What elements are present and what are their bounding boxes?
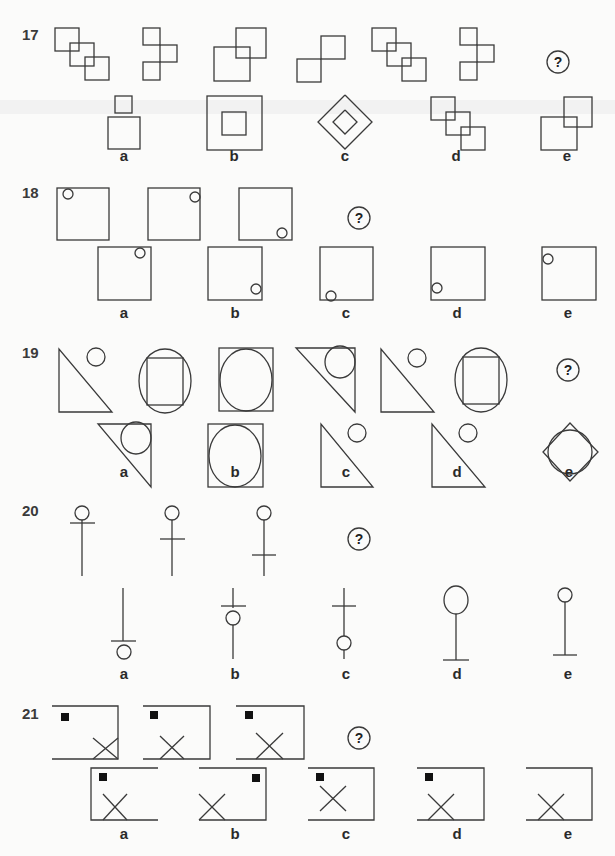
option-b[interactable]: b	[208, 424, 263, 487]
circle-outline	[432, 283, 442, 293]
option-label: d	[452, 665, 461, 682]
circle-outline	[251, 284, 261, 294]
question-mark-icon: ?	[557, 359, 579, 381]
option-label: a	[120, 304, 129, 321]
option-label: c	[342, 665, 350, 682]
square-outline	[222, 112, 246, 135]
option-c[interactable]: c	[332, 588, 356, 682]
square-outline	[372, 28, 396, 51]
option-a[interactable]: a	[98, 247, 151, 321]
option-d[interactable]: d	[432, 424, 485, 487]
option-e[interactable]: e	[553, 588, 577, 682]
square-outline	[321, 36, 345, 59]
question-number: 19	[22, 344, 39, 361]
option-label: d	[452, 825, 461, 842]
sequence-figure	[59, 348, 112, 412]
circle-outline	[348, 424, 366, 442]
option-label: e	[564, 304, 572, 321]
filled-square	[150, 711, 158, 719]
circle-outline	[117, 645, 131, 659]
answer-options: abcde	[98, 247, 596, 321]
question-mark-icon: ?	[348, 727, 370, 749]
option-label: d	[451, 147, 460, 164]
square-outline	[98, 247, 151, 300]
option-label: a	[120, 147, 129, 164]
option-label: c	[342, 825, 350, 842]
sequence-figures	[55, 28, 494, 82]
square-outline	[208, 247, 262, 300]
option-e[interactable]: e	[543, 423, 598, 481]
circle-outline	[257, 506, 271, 520]
option-label: a	[120, 665, 129, 682]
square-outline	[541, 117, 577, 150]
circle-outline	[543, 254, 553, 264]
option-label: b	[230, 665, 239, 682]
option-c[interactable]: c	[321, 424, 373, 487]
question-number: 17	[22, 26, 39, 43]
questions-root: 17?abcde18?abcde19?abcde20?abcde21?abcde	[22, 26, 598, 842]
circle-outline	[87, 348, 105, 366]
option-label: b	[229, 147, 238, 164]
sequence-figure	[55, 28, 109, 80]
option-label: e	[563, 147, 571, 164]
scan-shadow-band	[0, 100, 615, 114]
circle-outline	[459, 424, 477, 442]
circle-outline	[121, 422, 151, 454]
square-outline	[85, 57, 109, 80]
question-18: 18?abcde	[22, 184, 596, 321]
square-outline	[147, 358, 183, 405]
square-outline	[148, 188, 200, 240]
option-b[interactable]: b	[221, 588, 246, 682]
question-21: 21?abcde	[22, 705, 592, 842]
option-e[interactable]: e	[526, 768, 592, 842]
option-label: a	[120, 463, 129, 480]
sequence-figure	[70, 506, 95, 576]
square-outline	[57, 188, 109, 240]
svg-text:?: ?	[355, 531, 364, 547]
square-outline	[143, 28, 160, 45]
circle-outline	[220, 349, 272, 411]
filled-square	[252, 774, 260, 782]
question-number: 21	[22, 705, 39, 722]
filled-square	[425, 773, 433, 781]
option-b[interactable]: b	[208, 247, 262, 321]
option-label: e	[564, 665, 572, 682]
sequence-figure	[297, 36, 345, 82]
option-e[interactable]: e	[542, 247, 596, 321]
question-17: 17?abcde	[22, 26, 592, 164]
sequence-figure	[139, 349, 191, 413]
option-label: b	[230, 304, 239, 321]
option-a[interactable]: a	[98, 422, 151, 487]
sequence-figures	[52, 706, 304, 759]
sequence-figure	[143, 706, 210, 759]
option-c[interactable]: c	[308, 768, 374, 842]
outline-path	[59, 349, 112, 412]
square-outline	[143, 62, 160, 80]
sequence-figure	[252, 506, 276, 576]
option-d[interactable]: d	[417, 768, 484, 842]
option-a[interactable]: a	[91, 768, 158, 842]
option-d[interactable]: d	[443, 586, 469, 682]
sequence-figure	[236, 706, 304, 759]
sequence-figures	[59, 346, 507, 413]
square-outline	[55, 28, 79, 51]
option-b[interactable]: b	[199, 768, 266, 842]
svg-text:?: ?	[564, 362, 573, 378]
square-outline	[297, 59, 321, 82]
sequence-figure	[219, 348, 273, 411]
sequence-figure	[372, 28, 426, 81]
option-label: a	[120, 825, 129, 842]
option-label: c	[342, 304, 350, 321]
sequence-figure	[296, 346, 355, 412]
sequence-figure	[160, 506, 185, 576]
option-c[interactable]: c	[320, 247, 373, 321]
option-d[interactable]: d	[431, 247, 485, 321]
circle-outline	[558, 588, 572, 602]
circle-outline	[408, 349, 426, 367]
question-number: 20	[22, 502, 39, 519]
option-a[interactable]: a	[111, 588, 136, 682]
square-outline	[236, 28, 266, 58]
circle-outline	[135, 248, 145, 258]
square-outline	[461, 127, 485, 150]
sequence-figure	[143, 28, 177, 80]
